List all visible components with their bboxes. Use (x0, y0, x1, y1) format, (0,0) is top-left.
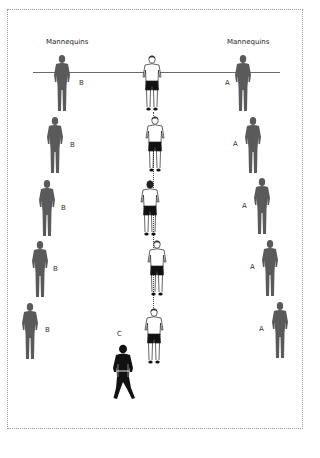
mannequin-b-5 (20, 303, 40, 361)
player-icon (139, 180, 161, 238)
player-4 (146, 240, 168, 298)
mannequin-a-1 (233, 55, 253, 113)
mannequin-a-3-label: A (242, 203, 247, 210)
mannequin-b-1-label: B (79, 80, 84, 87)
mannequin-a-5-label: A (259, 326, 264, 333)
right-heading: Mannequins (227, 39, 269, 46)
mannequin-a-1-label: A (225, 80, 230, 87)
mannequin-icon (235, 55, 251, 111)
left-heading: Mannequins (46, 39, 88, 46)
mannequin-icon (272, 302, 288, 358)
mannequin-icon (47, 117, 63, 173)
player-1 (141, 55, 163, 113)
mannequin-b-2-label: B (70, 142, 75, 149)
player-icon (143, 308, 165, 366)
mannequin-a-5 (270, 302, 290, 360)
mannequin-a-4 (260, 240, 280, 298)
mannequin-icon (54, 55, 70, 111)
mannequin-icon (254, 178, 270, 234)
player-icon (144, 116, 166, 174)
mannequin-a-3 (252, 178, 272, 236)
mannequin-b-3 (37, 180, 57, 238)
player-5 (143, 308, 165, 366)
mannequin-b-2 (45, 117, 65, 175)
mannequin-a-2-label: A (233, 141, 238, 148)
mannequin-icon (262, 240, 278, 296)
mannequin-icon (39, 180, 55, 236)
mannequin-a-4-label: A (250, 264, 255, 271)
mannequin-b-1 (52, 55, 72, 113)
mannequin-b-4-label: B (53, 266, 58, 273)
mannequin-icon (32, 241, 48, 297)
player-icon (141, 55, 163, 113)
mannequin-b-5-label: B (45, 327, 50, 334)
mannequin-b-4 (30, 241, 50, 299)
coach (108, 344, 138, 402)
mannequin-b-3-label: B (61, 205, 66, 212)
player-icon (146, 240, 168, 298)
player-2 (144, 116, 166, 174)
mannequin-icon (22, 303, 38, 359)
mannequin-a-2 (243, 117, 263, 175)
coach-icon (108, 344, 138, 402)
coach-label: C (117, 331, 122, 338)
player-3 (139, 180, 161, 238)
mannequin-icon (245, 117, 261, 173)
